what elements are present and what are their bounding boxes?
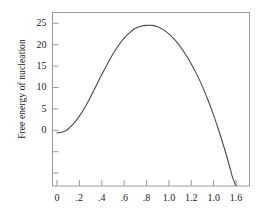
plot-area [0,0,266,216]
plot-frame [53,13,250,187]
chart-figure: Free energy of nucleation 2520151050 0.2… [0,0,266,216]
